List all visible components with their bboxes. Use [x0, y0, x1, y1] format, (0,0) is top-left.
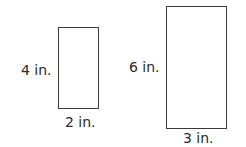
large-rectangle-width-label: 3 in.: [183, 130, 214, 146]
large-rectangle: [166, 6, 227, 129]
large-rectangle-height-label: 6 in.: [129, 59, 160, 75]
small-rectangle-width-label: 2 in.: [65, 114, 96, 130]
small-rectangle-height-label: 4 in.: [21, 62, 52, 78]
small-rectangle: [58, 27, 99, 109]
